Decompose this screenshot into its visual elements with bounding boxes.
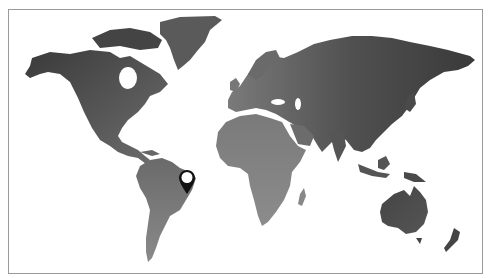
australia (380, 186, 428, 234)
borneo (378, 156, 390, 170)
caspian-sea (295, 98, 301, 110)
map-pin-icon[interactable] (178, 169, 196, 195)
world-map[interactable] (0, 0, 490, 278)
africa (216, 114, 306, 226)
black-sea (271, 99, 285, 105)
tasmania (416, 238, 422, 244)
arctic-islands (92, 28, 162, 50)
greenland (160, 16, 222, 70)
madagascar (298, 188, 306, 206)
india (330, 134, 346, 162)
new-zealand (444, 228, 460, 252)
new-guinea (404, 172, 426, 182)
hudson-bay (119, 67, 137, 89)
north-america (25, 50, 168, 164)
